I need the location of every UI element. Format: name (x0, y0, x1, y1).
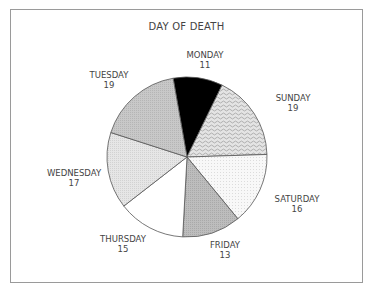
label-name: WEDNESDAY (47, 168, 101, 178)
label-name: FRIDAY (210, 240, 240, 250)
label-name: TUESDAY (90, 70, 129, 80)
slice-label-tuesday: TUESDAY 19 (90, 70, 129, 90)
pie-chart (0, 0, 369, 288)
slice-label-friday: FRIDAY 13 (210, 240, 240, 260)
slice-label-sunday: SUNDAY 19 (276, 93, 311, 113)
slice-label-wednesday: WEDNESDAY 17 (47, 168, 101, 188)
slice-label-saturday: SATURDAY 16 (275, 194, 320, 214)
label-value: 13 (210, 250, 240, 260)
label-value: 11 (186, 60, 223, 70)
label-name: SATURDAY (275, 194, 320, 204)
slice-label-monday: MONDAY 11 (186, 50, 223, 70)
label-name: SUNDAY (276, 93, 311, 103)
label-value: 19 (90, 80, 129, 90)
slice-label-thursday: THURSDAY 15 (100, 234, 146, 254)
label-value: 19 (276, 103, 311, 113)
label-value: 17 (47, 178, 101, 188)
label-name: MONDAY (186, 50, 223, 60)
label-value: 16 (275, 204, 320, 214)
label-value: 15 (100, 244, 146, 254)
label-name: THURSDAY (100, 234, 146, 244)
